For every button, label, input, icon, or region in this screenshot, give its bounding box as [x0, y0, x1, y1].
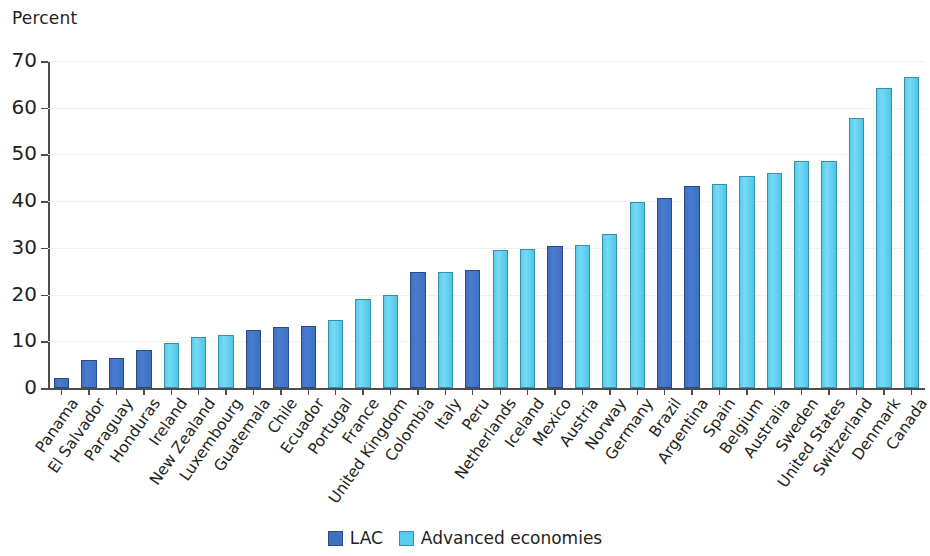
bar-slot: [383, 61, 398, 388]
bar: [328, 320, 343, 388]
bar: [54, 378, 69, 388]
x-axis-tick-mark: [746, 388, 747, 395]
bar: [493, 250, 508, 388]
x-axis-category-label: Italy: [433, 396, 465, 432]
bar-slot: [602, 61, 617, 388]
bar: [410, 272, 425, 388]
bar-slot: [904, 61, 919, 388]
x-axis-tick-mark: [61, 388, 62, 395]
x-axis-tick-mark: [774, 388, 775, 395]
bar: [547, 246, 562, 388]
bar-slot: [328, 61, 343, 388]
y-axis-tick-mark: [41, 201, 48, 203]
x-axis-tick-mark: [554, 388, 555, 395]
bar-slot: [54, 61, 69, 388]
x-axis-category-labels: PanamaEl SalvadorParaguayHondurasIreland…: [48, 396, 930, 516]
y-axis-tick-label: 0: [24, 377, 37, 397]
bar: [849, 118, 864, 388]
y-axis-tick-mark: [41, 154, 48, 156]
y-axis-tick-label: 40: [12, 190, 37, 210]
x-axis-tick-mark: [225, 388, 226, 395]
bar-slot: [712, 61, 727, 388]
bar: [301, 326, 316, 388]
bar: [904, 77, 919, 388]
bar: [630, 202, 645, 388]
bar-chart: Percent 010203040506070 PanamaEl Salvado…: [0, 0, 930, 556]
y-axis-tick-mark: [41, 108, 48, 110]
x-axis-tick-mark: [664, 388, 665, 395]
y-axis-tick-mark: [41, 295, 48, 297]
bar-slot: [547, 61, 562, 388]
bar-slot: [493, 61, 508, 388]
y-axis-tick-mark: [41, 388, 48, 390]
legend-label: Advanced economies: [421, 528, 602, 548]
bar: [876, 88, 891, 388]
x-axis-tick-mark: [171, 388, 172, 395]
x-axis-tick-mark: [362, 388, 363, 395]
x-axis-tick-mark: [88, 388, 89, 395]
bar: [438, 272, 453, 388]
x-axis-tick-mark: [335, 388, 336, 395]
x-axis-tick-mark: [527, 388, 528, 395]
legend-swatch-adv: [399, 531, 414, 546]
plot-area: 010203040506070: [48, 61, 925, 388]
x-axis-tick-mark: [719, 388, 720, 395]
bar-slot: [684, 61, 699, 388]
bar: [575, 245, 590, 388]
y-axis-tick-mark: [41, 248, 48, 250]
x-axis-tick-mark: [472, 388, 473, 395]
x-axis-tick-mark: [308, 388, 309, 395]
x-axis-tick-mark: [883, 388, 884, 395]
x-axis-tick-mark: [445, 388, 446, 395]
y-axis-tick-label: 60: [12, 97, 37, 117]
bar-slot: [821, 61, 836, 388]
bar: [191, 337, 206, 388]
x-axis-tick-mark: [417, 388, 418, 395]
bar-slot: [218, 61, 233, 388]
bar: [767, 173, 782, 388]
bar: [712, 184, 727, 388]
bar: [273, 327, 288, 388]
x-axis-tick-mark: [637, 388, 638, 395]
bar-slot: [273, 61, 288, 388]
bar-slot: [739, 61, 754, 388]
bar-slot: [136, 61, 151, 388]
bar: [684, 186, 699, 388]
legend-label: LAC: [350, 528, 383, 548]
bar: [465, 270, 480, 388]
y-axis-tick-label: 50: [12, 143, 37, 163]
x-axis-tick-mark: [911, 388, 912, 395]
bar-slot: [246, 61, 261, 388]
bar: [821, 161, 836, 388]
x-axis-tick-mark: [390, 388, 391, 395]
bar: [520, 249, 535, 388]
bar-slot: [355, 61, 370, 388]
legend-item[interactable]: Advanced economies: [399, 528, 602, 548]
legend-item[interactable]: LAC: [328, 528, 383, 548]
y-axis-tick-label: 10: [12, 330, 37, 350]
bar-slot: [630, 61, 645, 388]
bar-series-container: [48, 61, 925, 388]
legend-swatch-lac: [328, 531, 343, 546]
x-axis-tick-mark: [828, 388, 829, 395]
bar-slot: [794, 61, 809, 388]
x-axis-tick-mark: [582, 388, 583, 395]
x-axis-tick-mark: [143, 388, 144, 395]
bar-slot: [191, 61, 206, 388]
bar-slot: [575, 61, 590, 388]
bar-slot: [465, 61, 480, 388]
x-axis-tick-mark: [500, 388, 501, 395]
x-axis-line: [48, 388, 925, 390]
bar: [383, 295, 398, 388]
y-axis-unit-label: Percent: [12, 8, 77, 28]
bar-slot: [657, 61, 672, 388]
x-axis-tick-mark: [253, 388, 254, 395]
x-axis-tick-mark: [856, 388, 857, 395]
bar: [794, 161, 809, 388]
x-axis-tick-mark: [198, 388, 199, 395]
bar: [81, 360, 96, 388]
x-axis-tick-mark: [116, 388, 117, 395]
bar: [164, 343, 179, 388]
bar: [739, 176, 754, 388]
chart-legend: LACAdvanced economies: [0, 528, 930, 548]
